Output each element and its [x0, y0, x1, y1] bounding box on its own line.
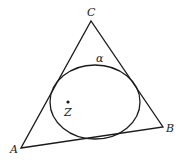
diagram-svg: A B C α Z — [0, 0, 184, 164]
ellipse-alpha — [50, 65, 140, 139]
ellipse-label-alpha: α — [96, 52, 104, 65]
vertex-label-b: B — [165, 122, 174, 135]
point-label-z: Z — [63, 106, 72, 119]
point-z — [66, 100, 69, 103]
vertex-label-c: C — [87, 6, 96, 19]
triangle-abc — [21, 21, 163, 148]
diagram-canvas: A B C α Z — [0, 0, 184, 164]
vertex-label-a: A — [9, 143, 18, 156]
